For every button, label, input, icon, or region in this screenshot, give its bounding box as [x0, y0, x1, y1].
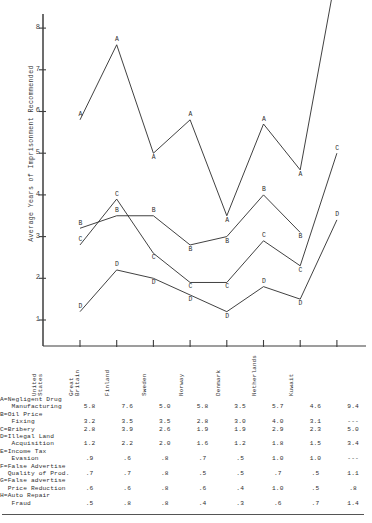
cell-r7-c5: .6: [259, 492, 297, 507]
column-header-line1: Kuwait: [289, 356, 295, 396]
cell-r2-c5: 2.9: [259, 426, 297, 433]
row-label-2: C=Bribery: [0, 426, 71, 433]
cell-r0-c4: 3.5: [221, 396, 259, 411]
point-label-c-5: C: [262, 233, 266, 239]
cell-r2-c0: 2.8: [71, 426, 109, 433]
column-header-5: Denmark: [216, 356, 256, 396]
column-header-line2: States: [38, 356, 44, 396]
cell-r0-c5: 5.7: [259, 396, 297, 411]
point-label-d-3: D: [189, 297, 193, 303]
point-label-d-7: D: [335, 212, 339, 218]
table-row: G=False advertise Price Reduction.6.6.8.…: [0, 477, 372, 492]
row-label-6: G=False advertise Price Reduction: [0, 477, 71, 492]
cell-r3-c7: 3.4: [334, 433, 372, 448]
row-label-7: H=Auto Repair Fraud: [0, 492, 71, 507]
cell-r7-c7: 1.4: [334, 492, 372, 507]
data-table-region: UnitedStatesGreatBritainFinlandSwedenNor…: [0, 352, 372, 523]
point-label-c-2: C: [152, 255, 156, 261]
column-header-line1: Denmark: [216, 356, 222, 396]
point-label-a-0: A: [78, 112, 82, 118]
cell-r4-c2: .8: [146, 448, 184, 463]
table-row: A=Negligent Drug Manufacturing5.87.65.05…: [0, 396, 372, 411]
cell-r3-c6: 1.5: [297, 433, 335, 448]
point-label-a-2: A: [152, 155, 156, 161]
cell-r5-c3: .5: [184, 463, 222, 478]
point-label-a-6: A: [299, 172, 303, 178]
chart-plot-region: Average Years of Imprisonment Recommende…: [0, 0, 372, 362]
column-header-line2: Britain: [74, 356, 80, 396]
column-header-line1: Sweden: [142, 356, 148, 396]
cell-r6-c2: .8: [146, 477, 184, 492]
row-label-0: A=Negligent Drug Manufacturing: [0, 396, 71, 411]
cell-r7-c3: .4: [184, 492, 222, 507]
cell-r1-c6: 3.1: [297, 411, 335, 426]
column-header-1: GreatBritain: [69, 356, 109, 396]
data-table: A=Negligent Drug Manufacturing5.87.65.05…: [0, 396, 372, 507]
cell-r3-c2: 2.0: [146, 433, 184, 448]
cell-r2-c1: 3.9: [108, 426, 146, 433]
cell-r7-c0: .5: [71, 492, 109, 507]
column-header-0: UnitedStates: [32, 356, 72, 396]
cell-r6-c0: .6: [71, 477, 109, 492]
point-label-d-1: D: [115, 262, 119, 268]
point-label-b-0: B: [78, 221, 82, 227]
row-label-1: B=Oil Price Fixing: [0, 411, 71, 426]
cell-r4-c3: .7: [184, 448, 222, 463]
point-label-d-6: D: [299, 301, 303, 307]
point-label-b-2: B: [152, 208, 156, 214]
table-row: H=Auto Repair Fraud.5.8.8.4.3.6.71.4: [0, 492, 372, 507]
cell-r0-c6: 4.6: [297, 396, 335, 411]
cell-r1-c2: 3.5: [146, 411, 184, 426]
row-label-4: E=Income Tax Evasion: [0, 448, 71, 463]
point-label-a-5: A: [262, 117, 266, 123]
cell-r6-c3: .6: [184, 477, 222, 492]
cell-r2-c7: 5.0: [334, 426, 372, 433]
cell-r5-c4: .5: [221, 463, 259, 478]
cell-r5-c2: .8: [146, 463, 184, 478]
point-label-b-1: B: [115, 208, 119, 214]
point-label-c-3: C: [189, 284, 193, 290]
series-line-b: [80, 195, 300, 245]
table-row: B=Oil Price Fixing3.23.53.52.83.04.03.1-…: [0, 411, 372, 426]
cell-r6-c7: .8: [334, 477, 372, 492]
point-label-c-0: C: [78, 237, 82, 243]
cell-r1-c4: 3.0: [221, 411, 259, 426]
table-bottom-rule: [2, 514, 364, 515]
cell-r7-c4: .3: [221, 492, 259, 507]
point-label-b-6: B: [299, 234, 303, 240]
cell-r5-c5: .7: [259, 463, 297, 478]
cell-r6-c1: .6: [108, 477, 146, 492]
cell-r5-c1: .7: [108, 463, 146, 478]
cell-r5-c6: .5: [297, 463, 335, 478]
table-row: D=Illegal Land Acquisition1.22.22.01.61.…: [0, 433, 372, 448]
cell-r4-c7: ---: [334, 448, 372, 463]
cell-r3-c3: 1.6: [184, 433, 222, 448]
cell-r1-c7: ---: [334, 411, 372, 426]
point-label-c-6: C: [299, 268, 303, 274]
point-label-c-7: C: [335, 146, 339, 152]
row-label-3: D=Illegal Land Acquisition: [0, 433, 71, 448]
cell-r0-c7: 9.4: [334, 396, 372, 411]
cell-r6-c6: .5: [297, 477, 335, 492]
table-row: F=False Advertise Quality of Prod..7.7.8…: [0, 463, 372, 478]
cell-r1-c5: 4.0: [259, 411, 297, 426]
cell-r3-c1: 2.2: [108, 433, 146, 448]
table-column-headers: UnitedStatesGreatBritainFinlandSwedenNor…: [0, 356, 372, 396]
column-header-3: Sweden: [142, 356, 182, 396]
column-header-4: Norway: [179, 356, 219, 396]
cell-r0-c0: 5.8: [71, 396, 109, 411]
column-header-line1: Finland: [105, 356, 111, 396]
table-row: C=Bribery2.83.92.61.91.92.92.35.0: [0, 426, 372, 433]
point-label-a-3: A: [189, 112, 193, 118]
chart-canvas: [0, 0, 372, 362]
point-label-d-4: D: [225, 314, 229, 320]
cell-r3-c5: 1.8: [259, 433, 297, 448]
cell-r0-c2: 5.0: [146, 396, 184, 411]
cell-r7-c2: .8: [146, 492, 184, 507]
cell-r5-c7: 1.1: [334, 463, 372, 478]
cell-r4-c4: .5: [221, 448, 259, 463]
cell-r2-c6: 2.3: [297, 426, 335, 433]
cell-r0-c3: 5.8: [184, 396, 222, 411]
row-label-5: F=False Advertise Quality of Prod.: [0, 463, 71, 478]
point-label-d-0: D: [78, 304, 82, 310]
